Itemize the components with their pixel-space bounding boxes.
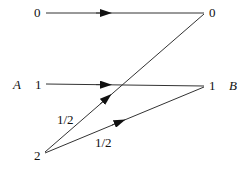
left-node-1-label: 1 [35,78,42,91]
right-node-1-label: 1 [209,79,216,92]
right-node-0-label: 0 [209,6,216,19]
left-node-2-label: 2 [34,149,41,162]
edge-1-to-1 [46,84,204,86]
edge-2-to-0-probability: 1/2 [57,113,74,126]
left-node-0-label: 0 [34,6,41,19]
edge-2-to-1-probability: 1/2 [95,136,112,149]
edge-2-to-0 [45,14,204,152]
set-b-label: B [229,79,237,92]
set-a-label: A [13,78,21,91]
